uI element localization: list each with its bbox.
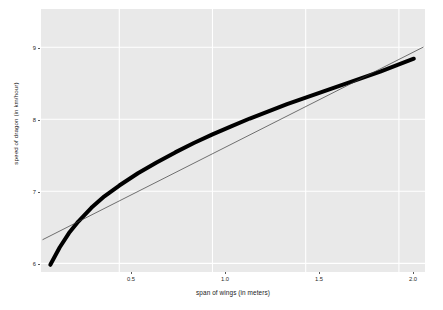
y-tick-label-8: 8 xyxy=(26,117,36,123)
y-tick-mark-6 xyxy=(38,264,40,265)
x-tick-label-0-5: 0.5 xyxy=(121,276,141,282)
y-tick-mark-7 xyxy=(38,192,40,193)
x-tick-label-1-0: 1.0 xyxy=(215,276,235,282)
x-tick-mark-1-0 xyxy=(225,272,226,274)
x-tick-label-1-5: 1.5 xyxy=(309,276,329,282)
y-tick-mark-8 xyxy=(38,120,40,121)
x-tick-mark-1-5 xyxy=(319,272,320,274)
y-tick-mark-9 xyxy=(38,48,40,49)
y-tick-label-9: 9 xyxy=(26,45,36,51)
x-axis-title: span of wings (in meters) xyxy=(41,289,425,296)
x-tick-mark-2-0 xyxy=(413,272,414,274)
y-tick-label-6: 6 xyxy=(26,261,36,267)
x-tick-label-2-0: 2.0 xyxy=(403,276,423,282)
chart-container: 9 8 7 6 speed of dragon (in km/hour) 0.5… xyxy=(0,0,443,310)
x-tick-mark-0-5 xyxy=(131,272,132,274)
y-axis-title: speed of dragon (in km/hour) xyxy=(12,49,19,199)
plot-panel xyxy=(41,9,425,272)
data-series-layer xyxy=(41,9,425,272)
y-tick-label-7: 7 xyxy=(26,189,36,195)
